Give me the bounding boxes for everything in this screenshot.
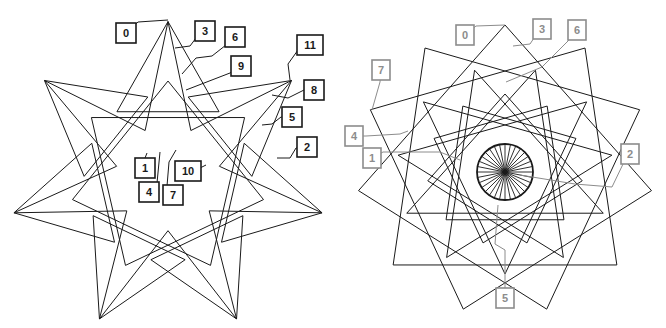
inner-star-edge — [527, 138, 576, 242]
callout-number: 11 — [304, 39, 316, 51]
callout-number: 0 — [462, 29, 468, 41]
outer-star-edge — [359, 191, 547, 309]
callout-label-7: 7 — [163, 185, 183, 205]
callout-number: 3 — [539, 23, 545, 35]
callout-number: 3 — [202, 25, 208, 37]
middle-star-edge — [423, 102, 505, 274]
star-spoke — [44, 80, 84, 176]
lace-line — [93, 216, 185, 260]
left-star-figure: 03691185211047 — [14, 20, 324, 319]
lace-line — [92, 143, 115, 242]
callout-label-7: 7 — [372, 60, 390, 80]
lace-line — [151, 216, 243, 260]
star-spoke — [93, 216, 99, 319]
callout-label-3: 3 — [195, 21, 215, 41]
star-spoke — [237, 216, 243, 319]
star-spoke — [219, 166, 322, 213]
callout-label-6: 6 — [568, 20, 586, 40]
star-spoke — [221, 213, 322, 242]
callout-number: 10 — [182, 165, 194, 177]
callout-label-11: 11 — [297, 35, 323, 55]
callout-number: 0 — [123, 27, 129, 39]
middle-star-edge — [505, 102, 587, 274]
center-dot — [503, 170, 508, 175]
callout-number: 4 — [351, 130, 358, 142]
callout-number: 4 — [146, 186, 153, 198]
callout-number: 1 — [142, 162, 148, 174]
star-spoke — [14, 211, 127, 213]
star-spoke — [252, 80, 292, 176]
callout-number: 1 — [369, 152, 375, 164]
callout-label-6: 6 — [225, 27, 245, 47]
star-spoke — [209, 211, 322, 213]
callout-label-10: 10 — [175, 161, 201, 181]
star-spoke — [168, 231, 237, 319]
callout-label-2: 2 — [297, 137, 317, 157]
lace-line — [125, 200, 263, 266]
outer-star-edge — [463, 191, 651, 309]
middle-star-edge — [447, 155, 612, 257]
callout-label-0: 0 — [116, 23, 136, 43]
outer-star-edge — [370, 110, 463, 309]
diagram-stage: 03691185211047 03674125 — [0, 0, 666, 328]
callout-label-1: 1 — [363, 148, 381, 168]
star-diagrams: 03691185211047 03674125 — [0, 0, 666, 328]
star-spoke — [145, 22, 168, 131]
star-spoke — [168, 22, 191, 131]
callout-number: 2 — [627, 148, 633, 160]
lace-line — [221, 143, 244, 242]
callout-number: 9 — [238, 60, 244, 72]
callout-label-4: 4 — [139, 182, 159, 202]
callout-number: 6 — [574, 24, 580, 36]
lace-line — [72, 200, 210, 266]
callout-label-5: 5 — [496, 288, 514, 308]
star-spoke — [14, 143, 92, 213]
callout-number: 8 — [311, 84, 317, 96]
star-spoke — [99, 231, 168, 319]
callout-label-1: 1 — [135, 158, 155, 178]
callout-number: 5 — [289, 111, 295, 123]
callout-label-8: 8 — [304, 80, 324, 100]
callout-number: 6 — [232, 31, 238, 43]
callout-label-9: 9 — [231, 56, 251, 76]
callout-label-5: 5 — [282, 107, 302, 127]
callout-label-4: 4 — [345, 126, 363, 146]
callout-number: 7 — [378, 64, 384, 76]
callout-label-3: 3 — [533, 19, 551, 39]
outer-star-edge — [585, 48, 617, 265]
middle-star-edge — [398, 155, 563, 257]
callout-label-0: 0 — [456, 25, 474, 45]
star-spoke — [14, 166, 117, 213]
inner-star-edge — [434, 138, 483, 242]
callout-number: 7 — [170, 189, 176, 201]
callout-number: 2 — [304, 141, 310, 153]
outer-star-edge — [547, 110, 640, 309]
right-star-figure: 03674125 — [345, 19, 651, 309]
star-spoke — [14, 213, 115, 242]
callout-label-2: 2 — [621, 144, 639, 164]
callout-number: 5 — [502, 292, 508, 304]
outer-star-edge — [393, 48, 425, 265]
